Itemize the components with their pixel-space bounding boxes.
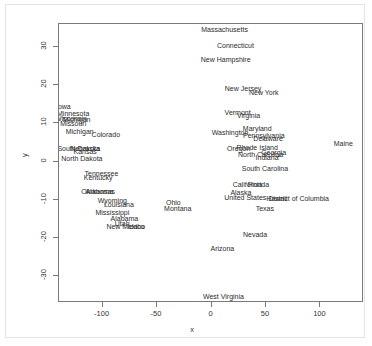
- data-point-label: West Virginia: [203, 293, 244, 301]
- scatter-plot: MassachusettsConnecticutNew HampshireNew…: [6, 5, 372, 346]
- y-axis-tick: [53, 199, 58, 200]
- data-point-label: Louisiana: [104, 201, 134, 209]
- data-point-label: United States: [224, 194, 266, 202]
- y-axis-tick: [53, 46, 58, 47]
- data-point-label: Maine: [334, 140, 353, 148]
- y-axis-tick-label: -20: [39, 230, 48, 244]
- data-point-label: District of Columbia: [268, 195, 329, 203]
- y-axis-tick-label: 0: [39, 153, 48, 167]
- data-point-label: New Hampshire: [201, 56, 251, 64]
- data-point-label: Idaho: [128, 223, 146, 231]
- x-axis-tick-label: 100: [313, 309, 326, 318]
- data-point-label: North Dakota: [61, 155, 102, 163]
- data-point-label: Montana: [164, 205, 191, 213]
- data-point-label: Virginia: [237, 112, 260, 120]
- x-axis-tick: [211, 302, 212, 307]
- data-point-label: New York: [249, 89, 279, 97]
- x-axis-tick-label: -100: [94, 309, 109, 318]
- y-axis-tick: [53, 161, 58, 162]
- y-axis-tick-label: -10: [39, 191, 48, 205]
- data-point-label: Nevada: [243, 231, 267, 239]
- x-axis-tick: [319, 302, 320, 307]
- data-point-label: Arizona: [211, 245, 235, 253]
- data-point-label: Arkansas: [86, 188, 115, 196]
- data-point-label: Massachusetts: [201, 26, 248, 34]
- data-point-label: Missouri: [60, 120, 86, 128]
- data-point-label: Colorado: [92, 131, 120, 139]
- y-axis-tick-label: 20: [39, 77, 48, 91]
- y-axis-tick: [53, 122, 58, 123]
- y-axis-tick-label: 30: [39, 38, 48, 52]
- data-point-label: South Carolina: [242, 165, 288, 173]
- x-axis-tick-label: 50: [261, 309, 269, 318]
- data-point-label: Michigan: [66, 128, 94, 136]
- y-axis-tick: [53, 275, 58, 276]
- x-axis-tick: [265, 302, 266, 307]
- y-axis-tick: [53, 237, 58, 238]
- plot-panel: MassachusettsConnecticutNew HampshireNew…: [58, 23, 363, 302]
- data-point-label: Texas: [256, 205, 274, 213]
- x-axis-tick-label: 0: [208, 309, 212, 318]
- y-axis-tick-label: -30: [39, 268, 48, 282]
- y-axis-tick: [53, 84, 58, 85]
- x-axis-tick: [102, 302, 103, 307]
- x-axis-tick: [156, 302, 157, 307]
- x-axis-title: x: [6, 325, 372, 334]
- data-point-label: Connecticut: [217, 42, 254, 50]
- data-point-label: Indiana: [256, 154, 279, 162]
- data-point-label: Kentucky: [84, 174, 113, 182]
- chart-card: MassachusettsConnecticutNew HampshireNew…: [5, 4, 365, 338]
- x-axis-tick-label: -50: [151, 309, 162, 318]
- y-axis-tick-label: 10: [39, 115, 48, 129]
- data-point-label: Delaware: [253, 135, 283, 143]
- y-axis-title: y: [20, 153, 29, 157]
